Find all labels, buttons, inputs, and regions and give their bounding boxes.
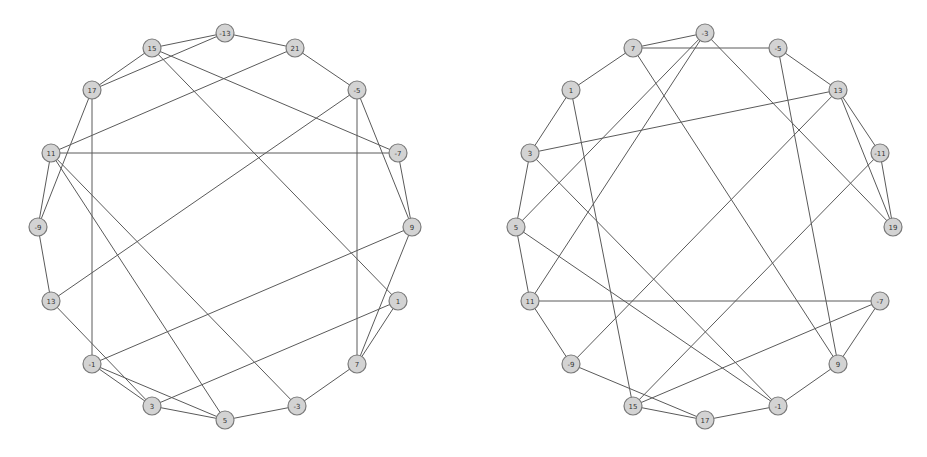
node-label: 11 [526,298,535,306]
graph-edge [778,48,838,364]
graph-edge [633,301,880,406]
node-label: -7 [395,150,402,158]
graph-node: 21 [286,39,304,57]
node-label: -9 [568,361,575,369]
node-label: -3 [294,403,301,411]
graph-edge [530,33,705,301]
graph-edge [92,48,152,90]
graph-node: 3 [143,397,161,415]
node-label: -1 [775,403,782,411]
graph-edge [516,33,705,227]
graph-node: 17 [696,411,714,429]
nodes-layer: -13152117-511-7-99131-173-35-37-51133-11… [29,24,902,429]
graph-node: 5 [507,218,525,236]
node-label: -7 [877,298,884,306]
node-label: 9 [410,224,414,232]
graph-node: 7 [624,39,642,57]
graph-node: -13 [216,24,234,42]
graph-edge [516,227,778,406]
graph-node: 1 [389,292,407,310]
graph-node: 9 [829,355,847,373]
graph-node: 5 [216,411,234,429]
graph-node: -3 [696,24,714,42]
graph-node: 15 [143,39,161,57]
node-label: 15 [148,45,157,53]
node-label: 1 [569,87,573,95]
graph-node: 7 [348,355,366,373]
graph-edge [633,33,705,48]
node-label: -5 [354,87,361,95]
node-label: -1 [89,361,96,369]
node-label: 3 [150,403,154,411]
graph-node: 11 [521,292,539,310]
node-label: 17 [88,87,97,95]
graph-node: 9 [403,218,421,236]
edges-layer [38,33,893,420]
graph-node: -1 [83,355,101,373]
graph-node: 13 [42,292,60,310]
graph-node: 19 [884,218,902,236]
left-graph-nodes: -13152117-511-7-99131-173-35 [29,24,421,429]
graph-edge [633,48,838,364]
graph-node: 15 [624,397,642,415]
graph-edge [633,406,705,420]
graph-edge [778,48,838,90]
graph-node: 1 [562,81,580,99]
graph-node: -3 [288,397,306,415]
node-label: 7 [355,361,359,369]
graph-edge [516,153,530,227]
graph-edge [398,153,412,227]
graph-node: 11 [42,144,60,162]
graph-edge [357,301,398,364]
graph-edge [571,90,838,364]
graph-edge [225,33,295,48]
graph-edge [297,364,357,406]
graph-edge [530,90,571,153]
node-label: 3 [528,150,532,158]
graph-edge [571,48,633,90]
node-label: 11 [47,150,56,158]
node-label: 21 [291,45,300,53]
graph-edge [51,153,225,420]
graph-node: -1 [769,397,787,415]
graph-edge [225,406,297,420]
graph-edge [51,90,357,301]
graph-edge [530,301,571,364]
graph-node: -7 [389,144,407,162]
node-label: 13 [834,87,843,95]
graph-edge [152,33,225,48]
node-label: 13 [47,298,56,306]
node-label: 7 [631,45,635,53]
node-label: 5 [514,224,518,232]
graph-edge [516,227,530,301]
graph-edge [152,406,225,420]
graph-node: -7 [871,292,889,310]
graph-edge [51,301,152,406]
graph-node: -5 [769,39,787,57]
node-label: -13 [219,30,230,38]
graph-edge [705,406,778,420]
node-label: 19 [889,224,898,232]
graph-edge [38,153,51,227]
graph-node: 17 [83,81,101,99]
graph-edge [92,227,412,364]
graph-node: -9 [29,218,47,236]
graph-canvas: -13152117-511-7-99131-173-35-37-51133-11… [0,0,927,457]
node-label: 9 [836,361,840,369]
graph-edge [778,364,838,406]
node-label: 5 [223,417,227,425]
node-label: 17 [701,417,710,425]
node-label: -9 [35,224,42,232]
graph-edge [38,227,51,301]
graph-node: -9 [562,355,580,373]
graph-node: -5 [348,81,366,99]
node-label: -5 [775,45,782,53]
node-label: -3 [702,30,709,38]
graph-node: 3 [521,144,539,162]
node-label: -11 [874,150,885,158]
node-label: 15 [629,403,638,411]
node-label: 1 [396,298,400,306]
graph-edge [295,48,357,90]
graph-node: -11 [871,144,889,162]
graph-node: 13 [829,81,847,99]
